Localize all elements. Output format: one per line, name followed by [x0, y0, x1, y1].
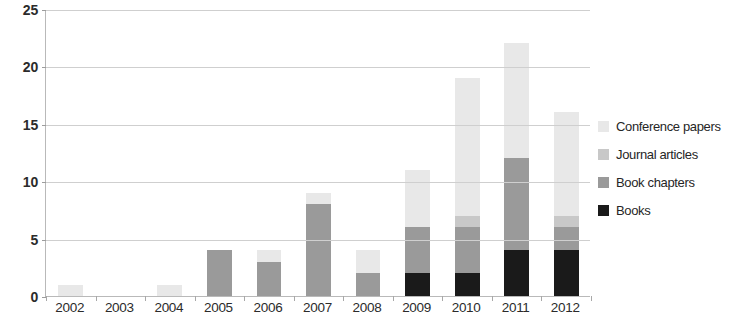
x-axis-tick-label: 2005 — [204, 300, 233, 315]
y-axis-tickmark — [42, 182, 46, 183]
bar-segment — [455, 273, 480, 296]
legend-item: Books — [598, 196, 734, 224]
gridline — [46, 10, 590, 11]
bar-segment — [554, 112, 579, 215]
stacked-bar-chart: 0510152025 20022003200420052006200720082… — [0, 0, 734, 323]
legend-swatch-icon — [598, 205, 609, 216]
bar-segment — [356, 273, 381, 296]
x-axis-tick-label: 2003 — [105, 300, 134, 315]
y-axis-tickmark — [42, 240, 46, 241]
bar-segment — [455, 78, 480, 216]
y-axis-tick-label: 10 — [0, 174, 38, 190]
legend-label: Book chapters — [616, 175, 695, 190]
bar-group — [257, 10, 282, 296]
y-axis-tick-label: 5 — [0, 232, 38, 248]
bar-segment — [405, 227, 430, 273]
bar-segment — [405, 170, 430, 227]
x-axis: 2002200320042005200620072008200920102011… — [45, 300, 590, 323]
bar-segment — [157, 285, 182, 296]
gridline — [46, 67, 590, 68]
bar-segment — [58, 285, 83, 296]
x-axis-tick-label: 2009 — [402, 300, 431, 315]
bar-group — [504, 10, 529, 296]
x-axis-tick-label: 2010 — [452, 300, 481, 315]
legend-swatch-icon — [598, 149, 609, 160]
bars-layer — [46, 10, 590, 296]
plot-area — [45, 10, 590, 297]
chart-legend: Conference papersJournal articlesBook ch… — [598, 112, 734, 224]
y-axis-tick-label: 0 — [0, 289, 38, 305]
bar-group — [405, 10, 430, 296]
x-axis-tick-label: 2002 — [55, 300, 84, 315]
bar-segment — [455, 216, 480, 227]
bar-segment — [554, 216, 579, 227]
bar-segment — [306, 204, 331, 296]
bar-segment — [504, 43, 529, 158]
y-axis-tick-label: 15 — [0, 117, 38, 133]
bar-group — [157, 10, 182, 296]
y-axis-tickmark — [42, 125, 46, 126]
bar-group — [207, 10, 232, 296]
legend-swatch-icon — [598, 177, 609, 188]
y-axis-tickmark — [42, 10, 46, 11]
legend-item: Conference papers — [598, 112, 734, 140]
y-axis-tickmark — [42, 67, 46, 68]
bar-group — [108, 10, 133, 296]
bar-group — [356, 10, 381, 296]
bar-group — [306, 10, 331, 296]
bar-segment — [306, 193, 331, 204]
bar-group — [455, 10, 480, 296]
bar-segment — [554, 250, 579, 296]
legend-swatch-icon — [598, 121, 609, 132]
x-axis-tick-label: 2012 — [551, 300, 580, 315]
legend-item: Book chapters — [598, 168, 734, 196]
y-axis-tick-label: 25 — [0, 2, 38, 18]
gridline — [46, 182, 590, 183]
bar-segment — [257, 250, 282, 261]
x-axis-tick-label: 2007 — [303, 300, 332, 315]
legend-label: Books — [616, 203, 650, 218]
y-axis: 0510152025 — [0, 0, 38, 323]
gridline — [46, 240, 590, 241]
x-axis-tick-label: 2004 — [154, 300, 183, 315]
x-axis-tick-label: 2006 — [254, 300, 283, 315]
x-axis-tickmark — [591, 296, 592, 301]
bar-group — [554, 10, 579, 296]
bar-segment — [257, 262, 282, 296]
y-axis-tick-label: 20 — [0, 59, 38, 75]
bar-segment — [504, 158, 529, 250]
legend-label: Conference papers — [616, 119, 721, 134]
bar-segment — [405, 273, 430, 296]
x-axis-tick-label: 2008 — [353, 300, 382, 315]
bar-segment — [504, 250, 529, 296]
legend-label: Journal articles — [616, 147, 698, 162]
bar-group — [58, 10, 83, 296]
x-axis-tick-label: 2011 — [502, 300, 530, 315]
legend-item: Journal articles — [598, 140, 734, 168]
bar-segment — [207, 250, 232, 296]
bar-segment — [455, 227, 480, 273]
gridline — [46, 125, 590, 126]
bar-segment — [356, 250, 381, 273]
